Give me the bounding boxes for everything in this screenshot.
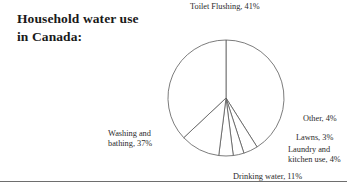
pie-slice-group xyxy=(168,40,284,156)
slice-label-laundry-and-kitchen-use: Laundry and kitchen use, 4% xyxy=(288,145,341,166)
slice-label-washing-and-bathing: Washing and bathing, 37% xyxy=(108,129,152,150)
bottom-divider xyxy=(0,181,347,182)
slice-label-toilet-flushing: Toilet Flushing, 41% xyxy=(190,2,260,12)
slice-label-other: Other, 4% xyxy=(303,114,337,124)
slice-label-lawns: Lawns, 3% xyxy=(296,133,333,143)
water-use-pie-figure: Household water use in Canada: Toilet Fl… xyxy=(0,0,347,188)
